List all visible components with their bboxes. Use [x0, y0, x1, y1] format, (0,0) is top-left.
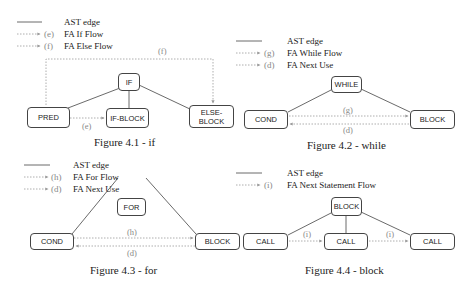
node-block: BLOCK: [195, 233, 240, 250]
legend-tag: (h): [51, 172, 62, 182]
legend-label: FA Next Statement Flow: [287, 180, 376, 190]
edge-label-h: (h): [127, 228, 137, 237]
node-if-block: IF-BLOCK: [106, 108, 149, 128]
legend-label: AST edge: [73, 160, 109, 170]
figure-caption: Figure 4.3 - for: [90, 264, 157, 276]
node-call: CALL: [410, 233, 455, 250]
legend-label: AST edge: [287, 36, 323, 46]
node-label-line: BLOCK: [199, 117, 224, 126]
legend-lines-4-2: [236, 41, 262, 65]
legend-tag: (f): [44, 41, 53, 51]
node-if: IF: [118, 73, 140, 91]
legend-label: FA While Flow: [287, 48, 342, 58]
legend-tag: (d): [264, 60, 275, 70]
figure-caption: Figure 4.2 - while: [307, 139, 386, 151]
legend-label: FA Else Flow: [64, 41, 113, 51]
legend-label: FA If Flow: [64, 29, 103, 39]
fig-4-3-fa-edges: [74, 238, 195, 246]
node-cond: COND: [244, 110, 288, 129]
legend-label: AST edge: [287, 168, 323, 178]
node-for: FOR: [117, 198, 146, 216]
edge-label-d: (d): [343, 126, 353, 135]
legend-label: FA For Flow: [73, 172, 119, 182]
diagram-canvas: (e) (f) AST edge FA If Flow FA Else Flow…: [0, 0, 473, 294]
legend-tag: (d): [51, 184, 62, 194]
edge-label-i: (i): [386, 230, 394, 239]
figure-caption: Figure 4.1 - if: [94, 136, 155, 148]
figure-caption: Figure 4.4 - block: [305, 264, 384, 276]
node-call: CALL: [324, 233, 368, 250]
legend-tag: (g): [264, 48, 275, 58]
node-while: WHILE: [331, 76, 362, 93]
node-block: BLOCK: [410, 110, 455, 129]
legend-tag: (i): [264, 180, 273, 190]
legend-label: FA Next Use: [73, 184, 119, 194]
edge-label-i: (i): [303, 230, 311, 239]
legend-lines-4-3: [24, 165, 50, 189]
edge-label-f: (f): [158, 47, 167, 56]
fig-4-2-fa-edges: [289, 116, 409, 124]
node-pred: PRED: [27, 107, 70, 128]
node-block-root: BLOCK: [331, 197, 362, 216]
edge-label-d: (d): [127, 249, 137, 258]
legend-lines-4-1: [17, 22, 42, 46]
node-else-block: ELSE- BLOCK: [189, 105, 234, 128]
edge-label-e: (e): [82, 122, 91, 131]
node-label-line: ELSE-: [201, 108, 223, 117]
edge-label-g: (g): [343, 106, 353, 115]
node-call: CALL: [243, 233, 288, 250]
legend-label: FA Next Use: [287, 60, 333, 70]
legend-label: AST edge: [64, 17, 100, 27]
legend-lines-4-4: [236, 173, 262, 185]
node-cond: COND: [30, 233, 74, 250]
legend-tag: (e): [44, 29, 54, 39]
